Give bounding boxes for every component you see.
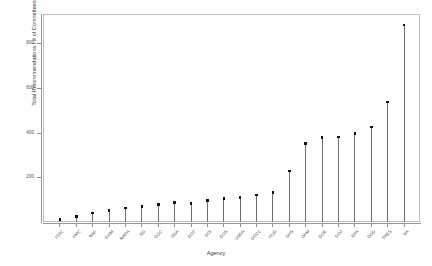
lollipop-stem [174,202,175,222]
data-point [108,209,111,212]
lollipop-stem [322,137,323,222]
x-tick-mark [223,223,224,227]
lollipop-stem [125,208,126,222]
lollipop-stem [256,195,257,222]
lollipop-stem [338,137,339,222]
lollipop-stem [289,171,290,222]
x-axis-title: Agency [0,250,432,256]
data-point [91,212,94,215]
lollipop-stem [191,203,192,222]
data-point [124,207,127,210]
lollipop-stem [141,206,142,222]
data-point [75,215,78,218]
data-point [403,24,406,27]
x-tick-label: VA [394,229,409,244]
lollipop-stem [223,199,224,222]
data-point [272,191,275,194]
x-tick-label: HUD [263,229,278,244]
lollipop-stem [158,205,159,222]
x-tick-label: EXIM [99,229,114,244]
data-point [157,203,160,206]
data-point [255,194,258,197]
y-tick-mark [37,133,41,134]
x-tick-label: NSF [83,229,98,244]
x-tick-mark [109,223,110,227]
x-tick-label: DOC2 [247,229,262,244]
lollipop-stem [240,197,241,222]
x-tick-label: DOD [361,229,376,244]
x-tick-mark [207,223,208,227]
lollipop-stem [404,25,405,222]
x-tick-label: DOE [312,229,327,244]
lollipop-stem [354,133,355,222]
data-point [370,126,373,129]
y-axis-title: Total Recommendations / # of Committees [31,0,37,143]
x-tick-mark [158,223,159,227]
x-tick-mark [322,223,323,227]
lollipop-stem [272,192,273,222]
lollipop-stem [305,143,306,222]
x-tick-mark [240,223,241,227]
x-tick-mark [191,223,192,227]
x-axis-line [43,223,421,224]
data-point [206,199,209,202]
x-tick-mark [174,223,175,227]
lollipop-stem [207,201,208,222]
y-tick-mark [37,43,41,44]
x-tick-mark [92,223,93,227]
data-point [337,136,340,139]
x-tick-mark [338,223,339,227]
x-tick-label: EPA [345,229,360,244]
lollipop-stem [387,102,388,222]
x-tick-label: ED [132,229,147,244]
x-tick-mark [76,223,77,227]
x-tick-label: DOC [148,229,163,244]
x-tick-label: GSA [165,229,180,244]
data-point [59,218,62,221]
y-tick-mark [37,88,41,89]
x-tick-mark [404,223,405,227]
data-point [190,202,193,205]
y-tick-mark [37,177,41,178]
x-tick-mark [305,223,306,227]
x-tick-label: DOS [214,229,229,244]
lollipop-stem [371,127,372,222]
x-tick-mark [387,223,388,227]
x-tick-label: FDIC [50,229,65,244]
x-tick-mark [354,223,355,227]
x-tick-mark [272,223,273,227]
x-tick-mark [371,223,372,227]
data-point [141,205,144,208]
data-point [223,197,226,200]
data-point [321,136,324,139]
x-tick-mark [141,223,142,227]
lollipop-stem [92,213,93,222]
data-point [239,196,242,199]
lollipop-stem [109,210,110,222]
x-tick-mark [59,223,60,227]
y-tick-label: 200 [12,174,34,179]
x-tick-label: TRES [378,229,393,244]
x-tick-label: NARA [116,229,131,244]
data-point [304,142,307,145]
x-tick-label: DHS [280,229,295,244]
x-tick-label: USDA [230,229,245,244]
data-point [354,132,357,135]
chart-figure: 200400600800 FDICFMCNSFEXIMNARAEDDOCGSAD… [0,0,432,266]
data-point [173,201,176,204]
plot-panel [43,14,420,222]
x-tick-mark [289,223,290,227]
x-tick-mark [125,223,126,227]
x-tick-label: DOT [181,229,196,244]
data-point [386,101,389,104]
y-axis-line [41,14,42,223]
x-tick-label: OPM [296,229,311,244]
x-tick-label: DOJ [329,229,344,244]
data-point [288,170,291,173]
x-tick-label: DOI [198,229,213,244]
x-tick-mark [256,223,257,227]
x-tick-label: FMC [66,229,81,244]
